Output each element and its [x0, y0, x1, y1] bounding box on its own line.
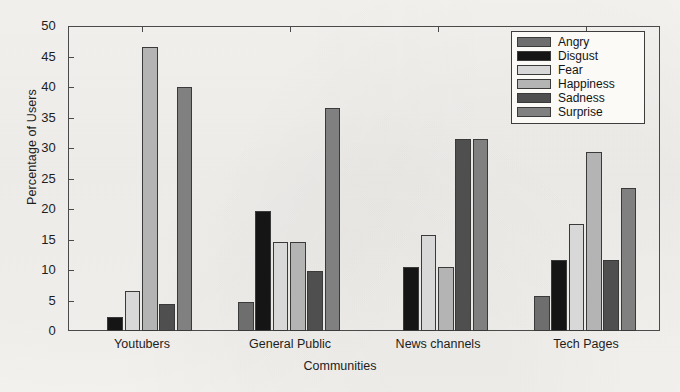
legend-label-surprise: Surprise	[558, 106, 603, 118]
y-axis-tick: 20	[0, 209, 68, 210]
y-axis-tick-label: 25	[41, 171, 56, 186]
bar-surprise-general-public	[325, 108, 341, 331]
y-axis-tick-mark	[68, 270, 74, 271]
bar-happiness-news-channels	[438, 267, 454, 331]
bar-angry-general-public	[238, 302, 254, 331]
x-axis-group-label: Tech Pages	[553, 337, 618, 351]
legend-label-fear: Fear	[558, 64, 583, 76]
legend-swatch-surprise	[517, 107, 551, 117]
bar-happiness-youtubers	[142, 47, 158, 331]
y-axis-tick: 35	[0, 118, 68, 119]
legend-label-sadness: Sadness	[558, 92, 605, 104]
y-axis-tick-label: 30	[41, 140, 56, 155]
y-axis-tick: 15	[0, 240, 68, 241]
y-axis-tick-mark	[68, 209, 74, 210]
y-axis-tick-label: 0	[49, 323, 56, 338]
y-axis-tick-mark	[68, 240, 74, 241]
legend-label-angry: Angry	[558, 36, 589, 48]
y-axis-tick-mark	[68, 118, 74, 119]
bar-fear-news-channels	[421, 235, 437, 331]
legend-swatch-angry	[517, 37, 551, 47]
bar-happiness-general-public	[290, 242, 306, 331]
legend-label-disgust: Disgust	[558, 50, 598, 62]
legend-swatch-sadness	[517, 93, 551, 103]
x-axis-group-label: General Public	[249, 337, 331, 351]
bar-angry-tech-pages	[534, 296, 550, 331]
y-axis-tick-label: 15	[41, 232, 56, 247]
y-axis-tick-mark	[68, 87, 74, 88]
y-axis-tick: 0	[0, 331, 68, 332]
y-axis-tick: 50	[0, 26, 68, 27]
y-axis-tick-mark	[68, 57, 74, 58]
legend-item-happiness: Happiness	[517, 77, 639, 91]
bar-sadness-youtubers	[159, 304, 175, 331]
bar-surprise-youtubers	[177, 87, 193, 331]
x-axis-title: Communities	[0, 359, 680, 373]
y-axis-tick-label: 45	[41, 49, 56, 64]
y-axis-tick: 10	[0, 270, 68, 271]
y-axis-tick-label: 35	[41, 110, 56, 125]
y-axis-tick-mark	[68, 148, 74, 149]
bar-surprise-tech-pages	[621, 188, 637, 331]
bar-fear-tech-pages	[569, 224, 585, 331]
x-axis-tick-mark	[290, 26, 291, 32]
y-axis-tick: 45	[0, 57, 68, 58]
legend-item-fear: Fear	[517, 63, 639, 77]
legend-item-angry: Angry	[517, 35, 639, 49]
x-axis-tick-mark	[142, 26, 143, 32]
x-axis-group-label: Youtubers	[114, 337, 170, 351]
y-axis-tick-label: 10	[41, 262, 56, 277]
bar-sadness-news-channels	[455, 139, 471, 331]
bar-disgust-news-channels	[403, 267, 419, 331]
x-axis-group-label: News channels	[396, 337, 481, 351]
bar-disgust-youtubers	[107, 317, 123, 331]
y-axis-tick-label: 50	[41, 18, 56, 33]
bar-sadness-tech-pages	[603, 260, 619, 331]
bar-disgust-general-public	[255, 211, 271, 331]
y-axis-tick: 30	[0, 148, 68, 149]
chart-legend: AngryDisgustFearHappinessSadnessSurprise	[511, 31, 645, 124]
legend-item-sadness: Sadness	[517, 91, 639, 105]
y-axis-tick-label: 20	[41, 201, 56, 216]
bar-fear-general-public	[273, 242, 289, 331]
y-axis-title: Percentage of Users	[25, 32, 39, 262]
legend-label-happiness: Happiness	[558, 78, 615, 90]
bar-disgust-tech-pages	[551, 260, 567, 331]
y-axis-tick-mark	[68, 179, 74, 180]
legend-item-disgust: Disgust	[517, 49, 639, 63]
y-axis-tick: 5	[0, 301, 68, 302]
legend-item-surprise: Surprise	[517, 105, 639, 119]
emotion-distribution-bar-chart: Percentage of Users 05101520253035404550…	[0, 0, 680, 392]
y-axis-tick: 40	[0, 87, 68, 88]
bar-sadness-general-public	[307, 271, 323, 331]
legend-swatch-happiness	[517, 79, 551, 89]
legend-swatch-fear	[517, 65, 551, 75]
bar-happiness-tech-pages	[586, 152, 602, 331]
y-axis-tick-mark	[68, 301, 74, 302]
y-axis-tick-label: 40	[41, 79, 56, 94]
y-axis-tick-label: 5	[49, 293, 56, 308]
bar-surprise-news-channels	[473, 139, 489, 331]
y-axis-tick: 25	[0, 179, 68, 180]
x-axis-tick-mark	[438, 26, 439, 32]
bar-fear-youtubers	[125, 291, 141, 331]
legend-swatch-disgust	[517, 51, 551, 61]
